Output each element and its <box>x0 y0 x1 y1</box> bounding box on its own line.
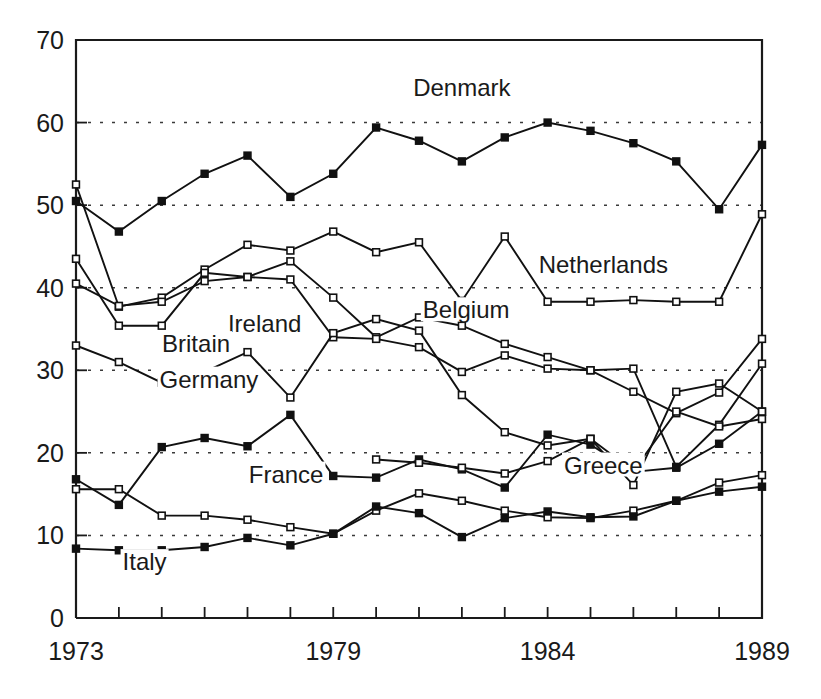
series-marker-britain <box>287 394 294 401</box>
series-label-greece: Greece <box>564 452 643 479</box>
series-marker-britain <box>716 423 723 430</box>
series-label-italy: Italy <box>123 548 167 575</box>
series-label-belgium: Belgium <box>423 296 510 323</box>
series-marker-britain <box>115 359 122 366</box>
series-marker-greece <box>416 459 423 466</box>
series-marker-italy <box>244 535 251 542</box>
series-marker-britain <box>373 316 380 323</box>
y-tick-label-0: 0 <box>50 604 64 632</box>
series-label-france: France <box>249 461 324 488</box>
series-marker-denmark <box>330 170 337 177</box>
series-marker-germany <box>73 476 80 483</box>
series-marker-italy <box>201 544 208 551</box>
series-marker-france <box>115 486 122 493</box>
series-marker-germany <box>501 484 508 491</box>
series-marker-ireland <box>158 298 165 305</box>
series-marker-belgium <box>158 322 165 329</box>
line-chart-svg: 010203040506070 1973197919841989 Denmark… <box>0 0 821 699</box>
series-marker-italy <box>73 545 80 552</box>
series-label-germany: Germany <box>160 366 259 393</box>
series-marker-belgium <box>501 340 508 347</box>
series-marker-britain <box>330 330 337 337</box>
series-marker-denmark <box>373 124 380 131</box>
series-marker-denmark <box>244 152 251 159</box>
series-marker-germany <box>115 501 122 508</box>
series-marker-france <box>201 512 208 519</box>
series-marker-ireland <box>244 274 251 281</box>
series-marker-france <box>501 507 508 514</box>
series-marker-ireland <box>759 360 766 367</box>
series-marker-greece <box>673 388 680 395</box>
series-marker-germany <box>544 431 551 438</box>
series-marker-denmark <box>716 206 723 213</box>
series-marker-france <box>73 486 80 493</box>
series-marker-ireland <box>201 278 208 285</box>
y-tick-label-10: 10 <box>36 521 64 549</box>
series-marker-netherlands <box>716 298 723 305</box>
series-marker-ireland <box>587 367 594 374</box>
series-marker-germany <box>373 474 380 481</box>
series-marker-britain <box>673 408 680 415</box>
series-marker-britain <box>501 429 508 436</box>
series-marker-netherlands <box>244 241 251 248</box>
series-marker-france <box>287 524 294 531</box>
x-tick-label-1979: 1979 <box>305 637 361 665</box>
y-tick-label-70: 70 <box>36 26 64 54</box>
series-marker-ireland <box>287 276 294 283</box>
series-marker-france <box>759 472 766 479</box>
series-marker-ireland <box>501 352 508 359</box>
y-tick-label-40: 40 <box>36 274 64 302</box>
series-marker-germany <box>716 440 723 447</box>
series-marker-belgium <box>544 354 551 361</box>
series-marker-netherlands <box>587 298 594 305</box>
series-marker-denmark <box>587 127 594 134</box>
series-marker-denmark <box>501 134 508 141</box>
series-marker-denmark <box>630 140 637 147</box>
series-marker-denmark <box>158 198 165 205</box>
series-marker-netherlands <box>501 233 508 240</box>
series-marker-germany <box>201 435 208 442</box>
series-marker-netherlands <box>416 239 423 246</box>
x-tick-label-1984: 1984 <box>520 637 576 665</box>
series-marker-netherlands <box>630 297 637 304</box>
series-marker-italy <box>673 497 680 504</box>
series-marker-germany <box>287 411 294 418</box>
series-label-netherlands: Netherlands <box>539 251 668 278</box>
series-marker-britain <box>73 342 80 349</box>
series-marker-ireland <box>115 302 122 309</box>
series-marker-ireland <box>630 365 637 372</box>
page-bottom-margin <box>0 683 821 699</box>
series-marker-belgium <box>458 322 465 329</box>
series-marker-greece <box>458 464 465 471</box>
series-marker-belgium <box>630 388 637 395</box>
series-marker-britain <box>416 327 423 334</box>
chart-background <box>0 0 821 699</box>
series-marker-denmark <box>115 228 122 235</box>
series-marker-ireland <box>373 336 380 343</box>
series-marker-italy <box>458 534 465 541</box>
series-marker-belgium <box>201 269 208 276</box>
series-marker-denmark <box>458 158 465 165</box>
series-marker-netherlands <box>373 249 380 256</box>
series-marker-italy <box>501 515 508 522</box>
series-marker-germany <box>244 443 251 450</box>
x-tick-label-1989: 1989 <box>734 637 790 665</box>
series-marker-britain <box>244 349 251 356</box>
series-marker-france <box>244 516 251 523</box>
series-marker-belgium <box>73 255 80 262</box>
series-marker-denmark <box>544 119 551 126</box>
series-marker-britain <box>544 442 551 449</box>
series-marker-denmark <box>73 198 80 205</box>
series-marker-belgium <box>287 258 294 265</box>
series-marker-netherlands <box>673 298 680 305</box>
y-tick-label-60: 60 <box>36 109 64 137</box>
series-marker-denmark <box>287 193 294 200</box>
series-marker-greece <box>759 408 766 415</box>
series-marker-france <box>416 490 423 497</box>
series-marker-italy <box>330 530 337 537</box>
series-marker-italy <box>544 508 551 515</box>
series-marker-greece <box>373 456 380 463</box>
series-marker-germany <box>673 464 680 471</box>
series-marker-italy <box>373 503 380 510</box>
x-tick-label-1973: 1973 <box>48 637 104 665</box>
